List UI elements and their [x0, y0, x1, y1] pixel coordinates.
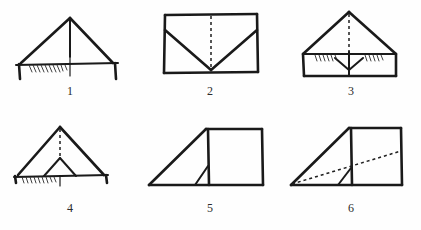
- figure-5: 5: [140, 113, 280, 228]
- figure-1-drawing: [0, 0, 140, 92]
- figure-6-label: 6: [281, 201, 421, 216]
- figure-6: 6: [281, 113, 421, 228]
- hatch-marks: [365, 55, 383, 61]
- hatch-marks: [22, 177, 56, 183]
- figure-2-label: 2: [140, 84, 280, 99]
- figure-4-drawing: [0, 113, 140, 205]
- figure-4: 4: [0, 113, 140, 228]
- figure-1: 1: [0, 0, 140, 115]
- figure-sheet: 1 2: [0, 0, 421, 230]
- hatch-marks: [29, 65, 67, 72]
- figure-3-drawing: [281, 0, 421, 92]
- figure-3-label: 3: [281, 84, 421, 99]
- figure-5-drawing: [140, 113, 280, 205]
- figure-2-drawing: [140, 0, 280, 92]
- figure-1-label: 1: [0, 84, 140, 99]
- figure-4-label: 4: [0, 201, 140, 216]
- figure-3: 3: [281, 0, 421, 115]
- figure-5-label: 5: [140, 201, 280, 216]
- figure-2: 2: [140, 0, 280, 115]
- hatch-marks: [315, 55, 337, 61]
- figure-6-drawing: [281, 113, 421, 205]
